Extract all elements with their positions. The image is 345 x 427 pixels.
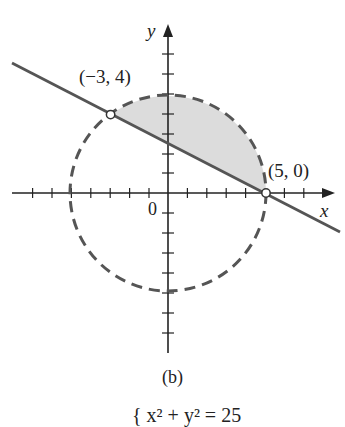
cut-off-equation: { x² + y² = 25: [132, 404, 241, 427]
y-axis-label: y: [147, 20, 155, 42]
x-axis-label: x: [320, 200, 328, 222]
origin-label: 0: [148, 199, 157, 220]
point-label-5-0: (5, 0): [268, 160, 309, 182]
figure-caption: (b): [0, 367, 345, 388]
point-marker-neg3-4: [106, 110, 114, 118]
point-label-neg3-4: (−3, 4): [79, 66, 131, 88]
x-axis-arrow-icon: [322, 188, 335, 198]
point-marker-5-0: [262, 189, 270, 197]
boundary-line: [12, 63, 340, 232]
shaded-region: [111, 96, 266, 193]
y-axis-arrow-icon: [163, 24, 173, 37]
